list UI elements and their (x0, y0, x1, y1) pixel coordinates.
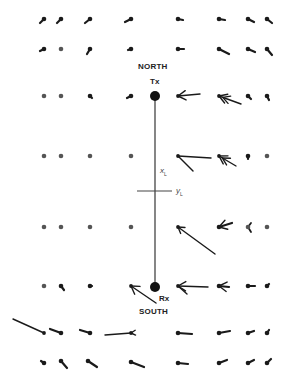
field-vector (42, 154, 47, 159)
field-vector (265, 225, 270, 230)
field-vector (88, 154, 93, 159)
field-vector (176, 47, 184, 52)
field-vector (246, 284, 255, 289)
field-vector (217, 17, 225, 22)
x-axis-subscript: L (164, 171, 167, 177)
field-vector (85, 17, 92, 23)
field-vector (246, 331, 254, 336)
transmitter-node (150, 91, 160, 101)
field-vector (176, 91, 200, 100)
field-vector (40, 47, 46, 52)
field-vector (57, 17, 63, 23)
field-vector (42, 94, 47, 99)
field-vector (217, 282, 229, 291)
field-vector (80, 330, 92, 335)
field-vector (265, 359, 271, 365)
field-vector (265, 94, 270, 100)
field-vector (59, 359, 67, 368)
field-vector (265, 330, 270, 335)
field-vector (265, 154, 270, 159)
field-vector (176, 361, 188, 366)
field-vector (217, 331, 230, 336)
field-vector (265, 47, 272, 55)
field-vector (176, 282, 208, 294)
field-vector (105, 330, 136, 335)
field-vector (59, 225, 64, 230)
field-vector (125, 17, 133, 22)
field-vector (246, 154, 251, 159)
y-axis-label: yL (176, 186, 183, 197)
north-label: NORTH (138, 62, 167, 71)
field-vector (59, 284, 64, 290)
field-vector-diagram (0, 0, 290, 387)
field-vector (41, 361, 46, 366)
field-vector (265, 17, 272, 23)
field-vector (128, 47, 133, 52)
field-vector (59, 47, 64, 52)
field-vector (86, 359, 97, 367)
field-vector (217, 154, 236, 166)
field-vector (246, 94, 251, 99)
field-vector (59, 154, 64, 159)
field-vector (176, 331, 192, 336)
field-vector (217, 360, 227, 365)
field-vector (129, 360, 144, 367)
field-vector (246, 47, 255, 52)
field-vector (246, 360, 254, 365)
field-vector (217, 94, 241, 104)
field-vector (50, 329, 63, 335)
field-vector (88, 225, 93, 230)
field-vector (176, 225, 215, 254)
x-axis-label: xL (160, 166, 167, 177)
field-vector (88, 94, 93, 99)
field-vector (127, 94, 133, 99)
tx-label: Tx (150, 77, 159, 86)
field-vector (217, 47, 229, 54)
field-vector (176, 154, 211, 171)
field-vector (88, 284, 93, 289)
field-vector (129, 225, 134, 230)
rx-label: Rx (159, 294, 169, 303)
field-vector (87, 47, 92, 54)
field-vector (13, 319, 46, 335)
field-vector (40, 17, 46, 23)
field-vector (246, 223, 251, 232)
field-vector (42, 225, 47, 230)
y-axis-subscript: L (180, 191, 183, 197)
south-label: SOUTH (139, 307, 168, 316)
field-vector (42, 284, 47, 289)
field-vector (176, 17, 183, 22)
field-vector (217, 220, 232, 229)
field-vector (265, 284, 270, 289)
field-vector (246, 17, 254, 22)
field-vector (129, 154, 134, 159)
receiver-node (150, 282, 160, 292)
field-vector (59, 94, 64, 99)
